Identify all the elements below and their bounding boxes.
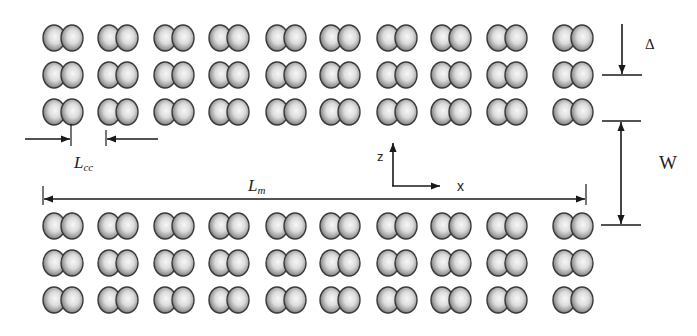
lm-label-sub: m xyxy=(257,184,265,196)
atom-sphere xyxy=(505,213,527,239)
delta-label: Δ xyxy=(645,36,655,53)
molecule xyxy=(377,213,417,239)
molecule xyxy=(553,250,593,276)
molecule xyxy=(377,25,417,51)
molecule xyxy=(266,250,306,276)
molecule xyxy=(487,213,527,239)
molecule xyxy=(487,62,527,88)
molecule xyxy=(320,250,360,276)
atom-sphere xyxy=(338,287,360,313)
molecule xyxy=(209,25,249,51)
molecule xyxy=(98,250,138,276)
molecule xyxy=(209,287,249,313)
atom-sphere xyxy=(172,62,194,88)
atom-sphere xyxy=(505,25,527,51)
bottom-molecule-array xyxy=(43,213,593,313)
molecule xyxy=(43,213,83,239)
molecule xyxy=(266,99,306,125)
molecule xyxy=(43,99,83,125)
molecule xyxy=(154,250,194,276)
molecule xyxy=(320,287,360,313)
molecule xyxy=(154,99,194,125)
atom-sphere xyxy=(571,99,593,125)
molecule xyxy=(487,25,527,51)
atom-sphere xyxy=(571,213,593,239)
atom-sphere xyxy=(116,99,138,125)
atom-sphere xyxy=(227,213,249,239)
molecule xyxy=(43,287,83,313)
atom-sphere xyxy=(172,287,194,313)
atom-sphere xyxy=(284,250,306,276)
molecule xyxy=(487,99,527,125)
atom-sphere xyxy=(61,213,83,239)
molecule xyxy=(266,25,306,51)
atom-sphere xyxy=(284,25,306,51)
atom-sphere xyxy=(395,62,417,88)
atom-sphere xyxy=(284,287,306,313)
molecule xyxy=(320,62,360,88)
molecule xyxy=(98,287,138,313)
top-molecule-array xyxy=(43,25,593,125)
molecule xyxy=(98,25,138,51)
molecule xyxy=(320,99,360,125)
molecule xyxy=(43,250,83,276)
atom-sphere xyxy=(227,99,249,125)
molecule xyxy=(43,62,83,88)
atom-sphere xyxy=(61,99,83,125)
atom-sphere xyxy=(571,62,593,88)
molecule xyxy=(266,213,306,239)
atom-sphere xyxy=(571,250,593,276)
molecule xyxy=(209,99,249,125)
atom-sphere xyxy=(227,287,249,313)
molecule xyxy=(377,62,417,88)
molecule xyxy=(154,287,194,313)
molecule xyxy=(209,213,249,239)
molecule xyxy=(154,62,194,88)
atom-sphere xyxy=(338,25,360,51)
atom-sphere xyxy=(284,62,306,88)
delta-dimension xyxy=(602,24,642,75)
atom-sphere xyxy=(172,250,194,276)
lm-label: Lm xyxy=(248,176,265,196)
atom-sphere xyxy=(284,213,306,239)
atom-sphere xyxy=(449,25,471,51)
atom-sphere xyxy=(395,213,417,239)
molecule xyxy=(431,62,471,88)
atom-sphere xyxy=(505,62,527,88)
molecule xyxy=(43,25,83,51)
molecule xyxy=(431,250,471,276)
molecule xyxy=(431,25,471,51)
z-axis-label: z xyxy=(377,149,384,164)
atom-sphere xyxy=(61,62,83,88)
atom-sphere xyxy=(449,287,471,313)
molecule xyxy=(553,287,593,313)
atom-sphere xyxy=(172,213,194,239)
diagram-canvas xyxy=(0,0,697,336)
molecule xyxy=(553,213,593,239)
molecule xyxy=(431,287,471,313)
atom-sphere xyxy=(449,62,471,88)
molecule xyxy=(209,62,249,88)
molecule xyxy=(377,250,417,276)
atom-sphere xyxy=(338,250,360,276)
molecule xyxy=(487,250,527,276)
molecule xyxy=(209,250,249,276)
atom-sphere xyxy=(571,25,593,51)
atom-sphere xyxy=(116,250,138,276)
x-axis-label: x xyxy=(457,178,464,194)
width-dimension xyxy=(601,121,641,225)
molecule xyxy=(98,99,138,125)
molecule xyxy=(154,213,194,239)
atom-sphere xyxy=(449,250,471,276)
atom-sphere xyxy=(395,250,417,276)
atom-sphere xyxy=(449,213,471,239)
lcc-dimension xyxy=(25,124,158,146)
atom-sphere xyxy=(395,287,417,313)
atom-sphere xyxy=(505,99,527,125)
molecule xyxy=(553,25,593,51)
atom-sphere xyxy=(227,25,249,51)
molecule xyxy=(98,213,138,239)
atom-sphere xyxy=(338,99,360,125)
molecule xyxy=(487,287,527,313)
molecule xyxy=(154,25,194,51)
